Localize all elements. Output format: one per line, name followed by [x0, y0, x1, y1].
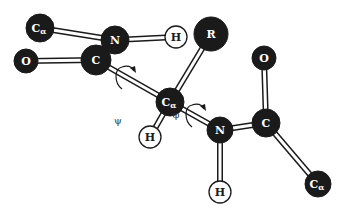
- atom-label-n1: N: [110, 34, 120, 47]
- atom-label-r: R: [206, 28, 216, 41]
- phi-angle-label: φ: [172, 109, 179, 120]
- atom-o2: O: [252, 46, 276, 70]
- atom-h3: H: [209, 181, 231, 203]
- atom-label-c1: C: [92, 54, 101, 67]
- atom-label-h1: H: [171, 31, 181, 44]
- atom-label-n2: N: [215, 124, 225, 137]
- psi-angle-label: ψ: [114, 115, 122, 126]
- atom-c2: C: [252, 109, 280, 137]
- atom-label-o1: O: [21, 55, 31, 68]
- atom-o1: O: [14, 49, 38, 73]
- atom-label-h2: H: [145, 131, 155, 144]
- atom-n2: N: [207, 117, 233, 143]
- atom-label-h3: H: [215, 186, 225, 199]
- atom-ca3: Cα: [305, 171, 331, 197]
- atom-h1: H: [165, 26, 187, 48]
- atom-ca2: Cα: [156, 88, 184, 116]
- atom-h2: H: [139, 126, 161, 148]
- atom-label-o2: O: [259, 52, 269, 65]
- atom-label-c2: C: [262, 117, 271, 130]
- atom-ca1: Cα: [26, 14, 54, 42]
- atom-c1: C: [81, 45, 111, 75]
- peptide-backbone-diagram: CαNHROCCαHONCHCα ψφ: [0, 0, 339, 214]
- atom-r: R: [194, 17, 228, 51]
